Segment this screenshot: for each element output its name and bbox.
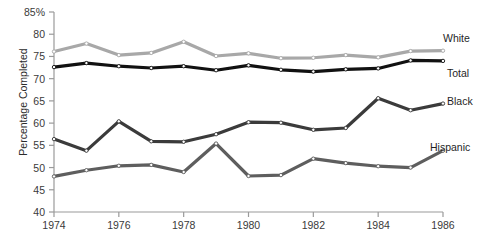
data-point-marker <box>279 68 282 71</box>
data-point-marker <box>312 157 315 160</box>
data-point-marker <box>279 57 282 60</box>
data-point-marker <box>52 175 55 178</box>
data-point-marker <box>312 56 315 59</box>
x-axis-tick-label: 1974 <box>42 219 65 231</box>
data-point-marker <box>85 149 88 152</box>
data-point-marker <box>214 69 217 72</box>
data-point-marker <box>376 165 379 168</box>
data-point-marker <box>182 40 185 43</box>
data-point-marker <box>214 54 217 57</box>
data-point-marker <box>85 42 88 45</box>
data-point-marker <box>117 120 120 123</box>
data-point-marker <box>214 133 217 136</box>
data-point-marker <box>150 140 153 143</box>
data-point-marker <box>85 169 88 172</box>
data-point-marker <box>52 65 55 68</box>
data-point-marker <box>117 53 120 56</box>
data-point-marker <box>376 56 379 59</box>
data-point-marker <box>182 65 185 68</box>
series-label-total: Total <box>447 67 469 79</box>
series-label-hispanic: Hispanic <box>430 141 470 153</box>
chart-container: 85%807570656055504540 Percentage Complet… <box>0 0 491 248</box>
x-axis-tick-label: 1986 <box>431 219 454 231</box>
data-point-marker <box>150 51 153 54</box>
data-point-marker <box>409 49 412 52</box>
data-point-marker <box>247 174 250 177</box>
series-total <box>52 59 444 74</box>
data-point-marker <box>279 121 282 124</box>
x-axis-tick-label: 1980 <box>237 219 260 231</box>
data-point-marker <box>344 68 347 71</box>
series-line <box>54 144 443 177</box>
data-point-marker <box>247 64 250 67</box>
x-axis-tick-label: 1976 <box>107 219 130 231</box>
data-point-marker <box>376 67 379 70</box>
data-point-marker <box>52 50 55 53</box>
data-point-marker <box>52 137 55 140</box>
data-point-marker <box>150 66 153 69</box>
series-line <box>54 98 443 150</box>
data-point-marker <box>279 173 282 176</box>
data-point-marker <box>441 102 444 105</box>
data-point-marker <box>214 142 217 145</box>
x-axis-tick-label: 1984 <box>366 219 389 231</box>
data-point-marker <box>344 161 347 164</box>
series-label-white: White <box>443 32 470 44</box>
series-black <box>52 97 444 153</box>
data-point-marker <box>344 53 347 56</box>
series-label-black: Black <box>447 95 473 107</box>
data-point-marker <box>344 126 347 129</box>
data-point-marker <box>409 59 412 62</box>
data-point-marker <box>182 140 185 143</box>
data-point-marker <box>247 52 250 55</box>
data-point-marker <box>409 109 412 112</box>
data-point-marker <box>441 59 444 62</box>
data-point-marker <box>247 121 250 124</box>
x-axis-tick-label: 1982 <box>302 219 325 231</box>
data-point-marker <box>182 170 185 173</box>
series-line <box>54 42 443 58</box>
x-axis-tick-label: 1978 <box>172 219 195 231</box>
data-point-marker <box>312 70 315 73</box>
data-point-marker <box>376 97 379 100</box>
data-point-marker <box>85 61 88 64</box>
axis-lines <box>54 12 443 212</box>
series-white <box>52 40 444 60</box>
data-point-marker <box>441 49 444 52</box>
data-point-marker <box>117 164 120 167</box>
data-point-marker <box>312 128 315 131</box>
chart-plot-area <box>0 0 491 248</box>
data-point-marker <box>117 65 120 68</box>
data-point-marker <box>409 166 412 169</box>
series-hispanic <box>52 142 444 178</box>
data-point-marker <box>150 163 153 166</box>
